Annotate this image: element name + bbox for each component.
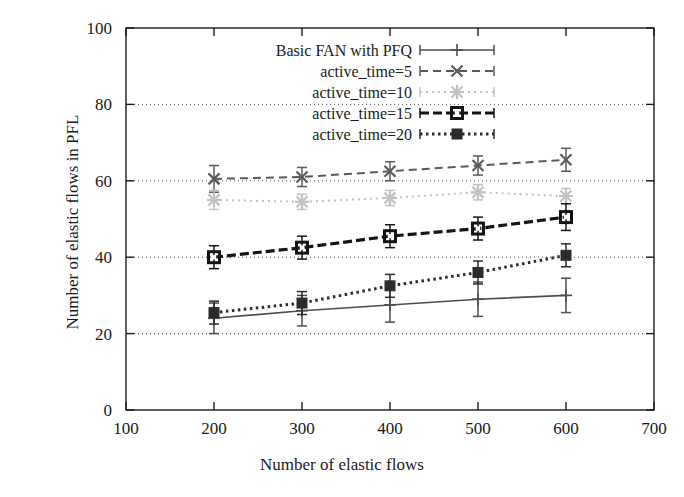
svg-text:300: 300	[289, 419, 315, 438]
legend-label-0: Basic FAN with PFQ	[276, 42, 413, 59]
svg-text:400: 400	[377, 419, 403, 438]
svg-text:0: 0	[104, 401, 113, 420]
plot-area: 100200300400500600700 020406080100 Basic…	[0, 0, 684, 497]
legend-label-1: active_time=5	[320, 63, 412, 80]
series-2	[207, 185, 573, 210]
svg-text:500: 500	[465, 419, 491, 438]
svg-text:600: 600	[553, 419, 579, 438]
svg-text:100: 100	[87, 19, 113, 38]
series-1	[209, 148, 572, 192]
svg-text:40: 40	[95, 248, 112, 267]
legend-label-4: active_time=20	[312, 126, 412, 143]
svg-text:200: 200	[201, 419, 227, 438]
chart-figure: 100200300400500600700 020406080100 Basic…	[0, 0, 684, 497]
x-axis-title: Number of elastic flows	[0, 455, 684, 475]
svg-text:80: 80	[95, 95, 112, 114]
series-3	[209, 204, 572, 269]
data-series-group	[207, 148, 573, 333]
svg-text:100: 100	[113, 419, 139, 438]
legend-label-2: active_time=10	[312, 84, 412, 101]
legend: Basic FAN with PFQactive_time=5active_ti…	[276, 42, 494, 143]
y-axis-title: Number of elastic flows in PFL	[63, 31, 83, 413]
legend-label-3: active_time=15	[312, 105, 412, 122]
svg-text:700: 700	[641, 419, 667, 438]
svg-text:20: 20	[95, 325, 112, 344]
svg-text:60: 60	[95, 172, 112, 191]
